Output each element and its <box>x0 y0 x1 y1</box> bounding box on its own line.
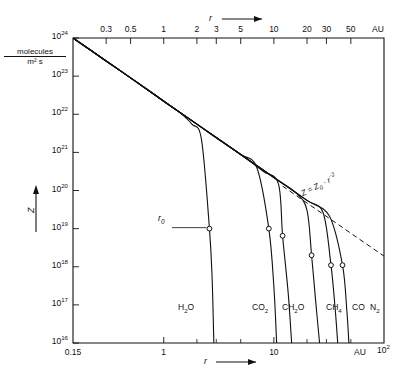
y-tick-label-21: 1021 <box>42 146 68 155</box>
y-axis-unit: molecules m² s <box>4 48 66 66</box>
y-axis-label: Z <box>26 208 36 214</box>
x-tick-label-top-30: 30 <box>313 25 339 34</box>
y-axis-arrowhead <box>33 185 39 194</box>
x-axis-unit-top: AU <box>368 25 388 34</box>
curve-H₂O <box>73 38 214 343</box>
x-axis-label-bottom: r <box>204 357 207 366</box>
knee-marker-CO₂ <box>266 226 271 231</box>
curve-CH₂O <box>73 38 292 343</box>
y-tick-label-20: 1020 <box>42 185 68 194</box>
y-tick-label-24: 1024 <box>42 32 68 41</box>
curve-label-CO₂: CO2 <box>252 303 268 312</box>
y-unit-denominator: m² s <box>4 57 66 66</box>
curve-CO₂ <box>73 38 277 343</box>
y-tick-label-23: 1023 <box>42 70 68 79</box>
x-tick-label-bottom-100: 102 <box>377 346 399 355</box>
r0-annotation: r0 <box>158 214 165 223</box>
y-tick-label-19: 1019 <box>42 223 68 232</box>
x-axis-arrowhead-top <box>254 16 262 22</box>
x-tick-label-top-50: 50 <box>338 25 364 34</box>
x-tick-label-bottom-0.15: 0.15 <box>60 348 86 357</box>
curve-label-CO: CO <box>352 303 365 312</box>
knee-marker-CO <box>329 263 334 268</box>
x-axis-unit-bottom: AU <box>350 348 370 357</box>
y-tick-label-22: 1022 <box>42 108 68 117</box>
x-axis-label-top: r <box>209 14 212 23</box>
curve-label-H₂O: H2O <box>178 303 194 312</box>
asymptote-line <box>283 186 384 256</box>
curve-CO <box>73 38 338 343</box>
curve-label-CH₄: CH4 <box>326 303 342 312</box>
y-tick-label-18: 1018 <box>42 261 68 270</box>
x-tick-label-top-3: 3 <box>203 25 229 34</box>
x-tick-label-bottom-1: 1 <box>151 348 177 357</box>
plot-frame <box>73 38 384 343</box>
x-tick-label-top-0.3: 0.3 <box>93 25 119 34</box>
knee-marker-H₂O <box>207 226 212 231</box>
x-tick-label-top-0.5: 0.5 <box>118 25 144 34</box>
y-unit-numerator: molecules <box>4 48 66 57</box>
curve-label-CH₂O: CH2O <box>282 303 304 312</box>
y-tick-label-17: 1017 <box>42 299 68 308</box>
curve-CH₄ <box>73 38 320 343</box>
x-tick-label-top-10: 10 <box>261 25 287 34</box>
x-tick-label-bottom-10: 10 <box>261 348 287 357</box>
curve-label-N₂: N2 <box>370 303 380 312</box>
sublimation-rate-chart: molecules m² s Z r r 1024102310221021102… <box>0 0 406 376</box>
knee-marker-CH₄ <box>309 253 314 258</box>
knee-marker-CH₂O <box>280 233 285 238</box>
x-tick-label-top-1: 1 <box>151 25 177 34</box>
x-tick-label-top-5: 5 <box>228 25 254 34</box>
x-axis-arrowhead-bottom <box>248 359 256 365</box>
y-tick-label-16: 1016 <box>42 337 68 346</box>
knee-marker-N₂ <box>340 263 345 268</box>
